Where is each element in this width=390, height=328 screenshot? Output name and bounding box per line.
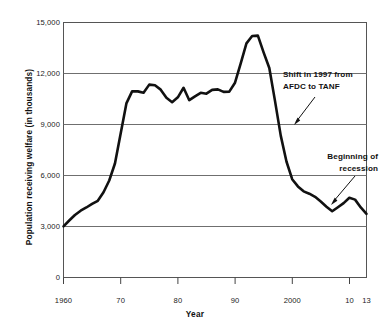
annotation-shift-1997-line1: Shift in 1997 from xyxy=(283,69,353,81)
x-axis-title: Year xyxy=(0,309,390,319)
x-tick-label-2013: 13 xyxy=(362,296,371,305)
x-tick-label-1980: 80 xyxy=(174,296,183,305)
annotation-shift-1997-line2: AFDC to TANF xyxy=(283,81,353,93)
x-tick-label-2000: 2000 xyxy=(284,296,301,305)
x-tick-label-1990: 90 xyxy=(231,296,240,305)
annotation-shift-1997: Shift in 1997 from AFDC to TANF xyxy=(283,69,353,92)
welfare-population-line-chart: Population receiving welfare (in thousan… xyxy=(0,0,390,328)
x-tick-label-1960: 1960 xyxy=(55,296,72,305)
x-tick-label-2010: 10 xyxy=(345,296,354,305)
x-tick-label-1970: 70 xyxy=(116,296,125,305)
x-axis-ticks xyxy=(64,278,350,285)
plot-frame xyxy=(64,23,367,278)
annotation-beginning-of-recession: Beginning of recession xyxy=(283,151,378,174)
annotation-recession-line2: recession xyxy=(283,163,378,175)
annotation-recession-line1: Beginning of xyxy=(283,151,378,163)
